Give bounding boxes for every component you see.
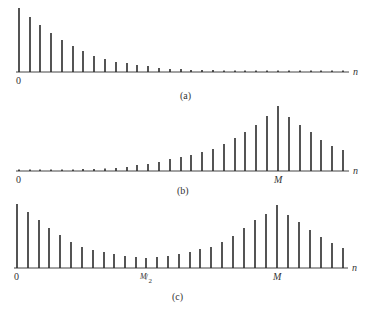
stem-plot-figure: 0n 0nM 0nM/2M (a) (b) (c) [0, 0, 368, 316]
tick-label-m-half: M/2 [139, 272, 153, 285]
panel-a: 0n [16, 8, 358, 86]
axis-label-n: n [352, 262, 357, 273]
svg-text:2: 2 [149, 277, 153, 285]
caption-a: (a) [180, 90, 191, 102]
origin-label: 0 [16, 174, 21, 185]
axis-label-n: n [353, 66, 358, 77]
panel-b: 0nM [16, 106, 358, 185]
caption-b: (b) [177, 185, 189, 197]
axis-label-n: n [353, 165, 358, 176]
panel-c: 0nM/2M [14, 204, 357, 285]
tick-label-m: M [273, 174, 283, 185]
tick-label-m: M [272, 271, 282, 282]
caption-c: (c) [172, 291, 183, 303]
origin-label: 0 [14, 271, 19, 282]
origin-label: 0 [16, 75, 21, 86]
